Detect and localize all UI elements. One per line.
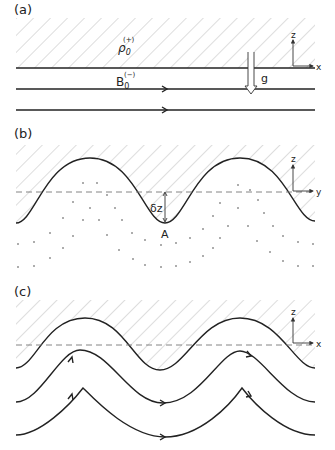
- panel-a-label: (a): [14, 2, 32, 17]
- field-arrow-icon: [68, 394, 73, 400]
- svg-text:z: z: [291, 30, 296, 40]
- density-superscript: (+): [123, 36, 135, 44]
- point-label: A: [161, 228, 169, 241]
- diagram-canvas: (a) ρ0 (+) B0 (−) g z x (b) δz A: [0, 0, 335, 450]
- displacement-label: δz: [150, 202, 163, 215]
- plasma-region-hatch: [16, 145, 315, 225]
- gravity-label: g: [261, 72, 268, 85]
- field-arrow-icon: [68, 357, 73, 363]
- panel-c-label: (c): [14, 284, 31, 299]
- panel-b-label: (b): [14, 126, 32, 141]
- svg-text:z: z: [291, 154, 296, 164]
- svg-text:y: y: [316, 187, 322, 197]
- panel-a: (a) ρ0 (+) B0 (−) g z x: [14, 2, 322, 113]
- panel-b: (b) δz A: [14, 126, 322, 268]
- field-line-2: [16, 388, 315, 437]
- panel-c: (c) z x: [14, 284, 322, 440]
- svg-text:x: x: [316, 62, 322, 72]
- plasma-region-hatch: [16, 18, 315, 68]
- svg-text:z: z: [291, 307, 296, 317]
- plasma-region-hatch: [16, 300, 315, 372]
- svg-text:x: x: [316, 339, 322, 349]
- field-superscript: (−): [124, 71, 136, 79]
